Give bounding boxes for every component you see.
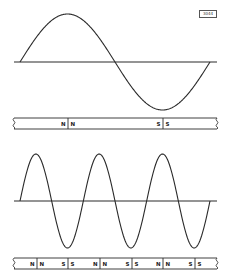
break-mark-icon <box>13 258 15 269</box>
pole-label: N <box>156 261 161 267</box>
magnet-bar-one-pole-pair: NNSS <box>13 118 218 129</box>
pole-label: N <box>61 121 66 127</box>
pole-label: N <box>93 261 98 267</box>
pole-label: N <box>30 261 35 267</box>
pole-label: S <box>189 261 193 267</box>
pole-label: S <box>126 261 130 267</box>
pole-label: N <box>40 261 45 267</box>
break-mark-icon <box>13 118 15 129</box>
pole-label: S <box>62 261 66 267</box>
pole-label: N <box>166 261 171 267</box>
break-mark-icon <box>216 258 218 269</box>
pole-label: S <box>157 121 161 127</box>
pole-label: S <box>71 261 75 267</box>
waveform-diagram: NNSS NNSSNNSSNNSS <box>0 0 230 276</box>
pole-label: N <box>103 261 108 267</box>
pole-label: S <box>198 261 202 267</box>
sine-wave-one-cycle <box>14 14 217 110</box>
break-mark-icon <box>216 118 218 129</box>
pole-label: S <box>166 121 170 127</box>
pole-label: S <box>135 261 139 267</box>
pole-label: N <box>71 121 76 127</box>
sine-wave-three-cycles <box>14 154 217 248</box>
magnet-bar-multiple-pole-pairs: NNSSNNSSNNSS <box>13 258 218 269</box>
